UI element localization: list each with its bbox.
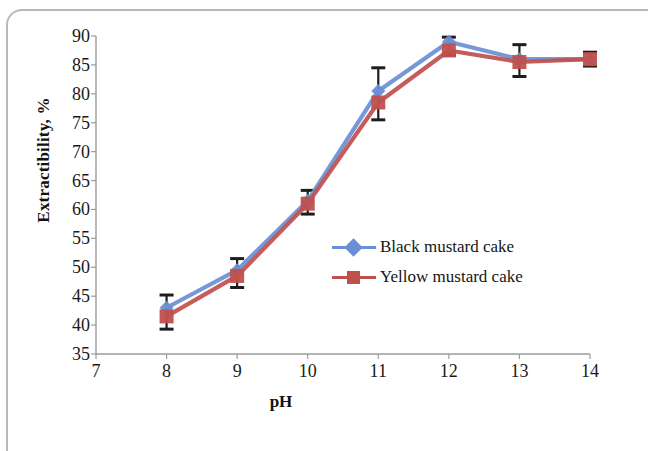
square-marker-icon [160, 309, 174, 323]
legend-key-yellow-mustard-cake [332, 268, 376, 286]
legend-label-yellow-mustard-cake: Yellow mustard cake [380, 267, 523, 287]
square-marker-icon [583, 52, 597, 66]
chart-legend: Black mustard cake Yellow mustard cake [332, 232, 523, 292]
square-marker-icon [301, 197, 315, 211]
diamond-marker-icon [344, 238, 362, 256]
square-marker-icon [442, 43, 456, 57]
square-marker-icon [512, 55, 526, 69]
square-marker-icon [371, 95, 385, 109]
legend-label-black-mustard-cake: Black mustard cake [380, 237, 514, 257]
legend-key-black-mustard-cake [332, 238, 376, 256]
square-marker-icon [347, 271, 360, 284]
legend-item-yellow-mustard-cake: Yellow mustard cake [332, 262, 523, 292]
square-marker-icon [230, 269, 244, 283]
legend-item-black-mustard-cake: Black mustard cake [332, 232, 523, 262]
